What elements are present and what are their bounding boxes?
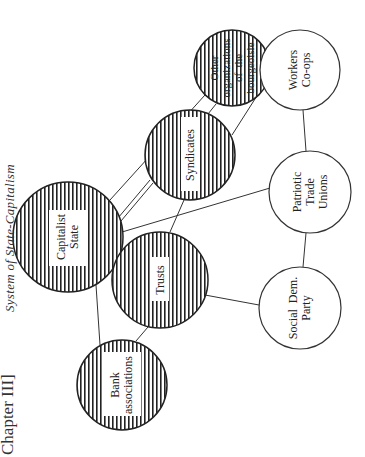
label-line: organizations — [220, 38, 232, 97]
figure-title: System of State-Capitalism — [2, 164, 18, 312]
edge-state-syndicates-b — [121, 183, 153, 221]
label-social-dem-party: Social Dem.Party — [287, 277, 313, 339]
label-syndicates: Syndicates — [184, 129, 197, 181]
edge-state-bank — [96, 285, 100, 345]
edge-trusts-social — [205, 295, 259, 305]
label-line: of the — [232, 38, 244, 97]
label-line: bourgeoisie — [244, 38, 256, 97]
edge-syndicates-other — [208, 104, 216, 114]
label-capitalist-state: CapitalistState — [55, 214, 81, 260]
label-line: State — [68, 214, 81, 260]
label-trusts: Trusts — [154, 265, 167, 295]
label-patriotic-trade-unions: PatrioticTradeUnions — [291, 172, 330, 213]
label-workers-coops: WorkersCo-ops — [287, 50, 313, 90]
label-bank-associations: Bankassociations — [109, 356, 135, 414]
label-line: Unions — [317, 172, 330, 213]
edge-unions-coops — [303, 110, 306, 151]
edge-unions-social — [303, 233, 306, 267]
label-line: Other — [208, 38, 220, 97]
label-line: associations — [122, 356, 135, 414]
label-line: Co-ops — [300, 50, 313, 90]
label-line: Party — [300, 277, 313, 339]
label-other-organizations: Otherorganizationsof thebourgeoisie — [208, 38, 256, 97]
chapter-label: Chapter III] — [0, 374, 18, 455]
edge-syndicates-trusts — [170, 200, 184, 232]
label-line: Syndicates — [184, 129, 197, 181]
edge-trusts-bank — [136, 327, 148, 341]
label-line: Trusts — [154, 265, 167, 295]
